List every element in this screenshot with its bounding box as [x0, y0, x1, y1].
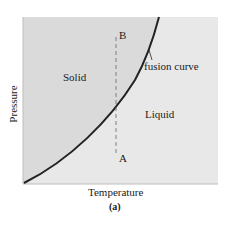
liquid-region-label: Liquid	[145, 108, 174, 120]
x-axis-label: Temperature	[88, 186, 143, 198]
fusion-curve-label: fusion curve	[144, 60, 199, 72]
point-a-label: A	[119, 152, 127, 164]
point-b-label: B	[119, 29, 126, 41]
solid-region-label: Solid	[63, 71, 86, 83]
y-axis-label: Pressure	[7, 79, 19, 129]
figure-caption: (a)	[109, 201, 121, 212]
